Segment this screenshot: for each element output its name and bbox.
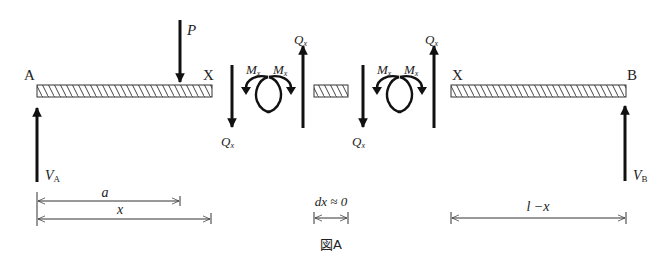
- dimension-a: [37, 192, 180, 226]
- moment-label: Mx: [272, 62, 288, 78]
- moment-label: Mx: [245, 62, 261, 78]
- dimension-dx-label: dx ≈ 0: [315, 194, 348, 209]
- support-b-label: B: [627, 67, 637, 83]
- shear-label: Qx: [352, 134, 365, 150]
- shear-label: Qx: [294, 32, 307, 48]
- beam-right-segment: [451, 85, 626, 97]
- free-body-diagram: A X P VA Qx Mx Mx Qx Qx: [0, 0, 669, 261]
- shear-label: Qx: [221, 134, 234, 150]
- cut-left-label: X: [203, 67, 214, 83]
- moment-label: Mx: [403, 62, 419, 78]
- moment-left-cut-cw-icon: [267, 76, 296, 112]
- moment-right-cut-cw-icon: [398, 76, 427, 112]
- dimension-x-label: x: [116, 202, 124, 217]
- dimension-a-label: a: [102, 185, 109, 200]
- moment-right-cut-ccw-icon: [372, 76, 401, 112]
- cut-right-label: X: [452, 67, 463, 83]
- reaction-vb-label: VB: [633, 168, 648, 184]
- moment-label: Mx: [376, 62, 392, 78]
- reaction-va-label: VA: [45, 168, 61, 184]
- shear-label: Qx: [425, 32, 438, 48]
- dimension-l-minus-x-label: l −x: [526, 199, 550, 214]
- support-a-label: A: [24, 67, 35, 83]
- beam-middle-element: [314, 85, 348, 97]
- moment-left-cut-ccw-icon: [241, 76, 270, 112]
- dimension-x: [38, 213, 211, 224]
- load-p-label: P: [186, 22, 196, 38]
- beam-left-segment: [37, 85, 212, 97]
- dimension-dx: [314, 212, 348, 224]
- figure-caption: 図A: [320, 237, 342, 252]
